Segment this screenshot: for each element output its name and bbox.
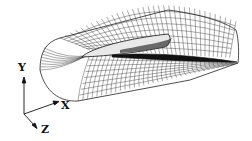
z-axis-label: Z	[41, 124, 49, 135]
mesh-figure: Y X Z	[0, 0, 252, 141]
x-axis-line	[24, 103, 55, 114]
x-axis-label: X	[61, 100, 70, 111]
y-arrow-icon	[22, 77, 26, 83]
wireframe-mesh	[0, 0, 252, 141]
axis-triad	[22, 77, 59, 129]
x-arrow-icon	[53, 101, 59, 105]
y-axis-label: Y	[18, 62, 26, 73]
